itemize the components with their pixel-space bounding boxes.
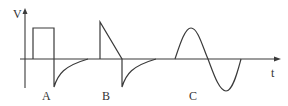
waveform-diagram: V t A B C [0, 0, 288, 106]
waveform-c-label: C [189, 89, 197, 103]
waveform-a-label: A [42, 89, 51, 103]
waveform-c: C [175, 28, 241, 103]
y-axis-label: V [13, 7, 22, 21]
x-axis-arrow-icon [274, 57, 281, 62]
y-axis-arrow-icon [23, 8, 28, 14]
waveform-b-label: B [102, 89, 110, 103]
y-axis: V [13, 7, 28, 88]
waveform-a: A [33, 28, 88, 103]
x-axis-label: t [271, 66, 275, 80]
waveform-b: B [100, 22, 156, 103]
